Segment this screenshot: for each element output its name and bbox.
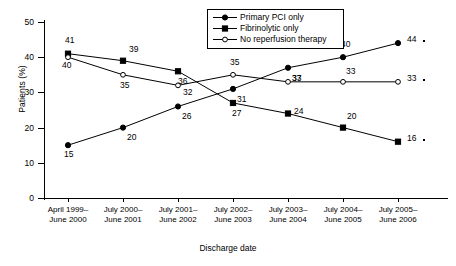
data-point-marker[interactable]	[65, 143, 70, 148]
data-point-marker[interactable]	[286, 79, 291, 84]
data-point-label: 33	[346, 67, 355, 76]
data-point-label: 20	[347, 112, 356, 121]
data-point-marker[interactable]	[285, 111, 290, 116]
data-point-marker[interactable]	[230, 86, 235, 91]
data-point-label: 35	[120, 81, 129, 90]
end-marker-dot-icon	[423, 40, 425, 42]
data-point-marker[interactable]	[121, 72, 126, 77]
data-point-marker[interactable]	[341, 79, 346, 84]
data-point-label: 32	[183, 88, 192, 97]
data-point-label: 39	[129, 45, 138, 54]
chart-figure: Patients (%) Discharge date 01020304050 …	[0, 0, 456, 266]
data-point-marker[interactable]	[396, 79, 401, 84]
legend-marker-open-circle-icon	[212, 34, 238, 45]
data-point-label: 20	[127, 133, 136, 142]
data-point-label: 27	[232, 109, 241, 118]
data-point-label: 36	[178, 77, 187, 86]
data-point-label: 33	[292, 74, 301, 83]
end-marker-dot-icon	[423, 139, 425, 141]
data-point-label: 33	[407, 74, 416, 83]
data-point-marker[interactable]	[285, 65, 290, 70]
legend-item-fibrinolytic[interactable]: Fibrinolytic only	[212, 23, 339, 34]
data-point-marker[interactable]	[120, 58, 125, 63]
legend-label: Fibrinolytic only	[240, 23, 299, 34]
data-point-label: 15	[64, 150, 73, 159]
data-point-marker[interactable]	[175, 104, 180, 109]
data-point-marker[interactable]	[231, 72, 236, 77]
legend-marker-filled-circle-icon	[212, 12, 238, 23]
data-point-label: 40	[62, 61, 71, 70]
legend-marker-filled-square-icon	[212, 23, 238, 34]
data-point-label: 24	[294, 107, 303, 116]
data-point-label: 35	[230, 58, 239, 67]
data-point-label: 41	[65, 36, 74, 45]
data-point-marker[interactable]	[395, 139, 400, 144]
data-point-marker[interactable]	[340, 55, 345, 60]
legend-item-primary-pci[interactable]: Primary PCI only	[212, 12, 339, 23]
data-point-marker[interactable]	[230, 100, 235, 105]
data-point-marker[interactable]	[340, 125, 345, 130]
data-point-marker[interactable]	[120, 125, 125, 130]
data-point-marker[interactable]	[175, 69, 180, 74]
legend-label: Primary PCI only	[240, 12, 304, 23]
data-point-label: 31	[237, 95, 246, 104]
legend-label: No reperfusion therapy	[240, 34, 326, 45]
data-point-label: 16	[407, 134, 416, 143]
end-marker-dot-icon	[423, 79, 425, 81]
chart-legend: Primary PCI only Fibrinolytic only No re…	[207, 9, 344, 49]
data-point-marker[interactable]	[395, 41, 400, 46]
legend-item-no-reperfusion[interactable]: No reperfusion therapy	[212, 34, 339, 45]
data-point-marker[interactable]	[66, 55, 71, 60]
data-point-label: 26	[182, 112, 191, 121]
data-point-label: 44	[407, 35, 416, 44]
